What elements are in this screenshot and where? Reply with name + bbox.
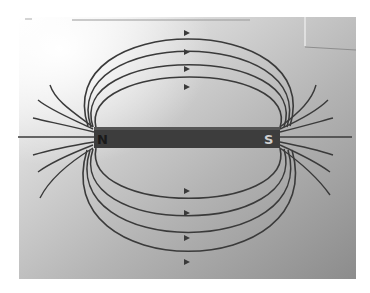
bar-magnet: N S [94,127,280,148]
south-pole-label: S [264,132,273,147]
north-pole-label: N [97,132,108,147]
magnetic-field-diagram: N S [0,0,370,293]
